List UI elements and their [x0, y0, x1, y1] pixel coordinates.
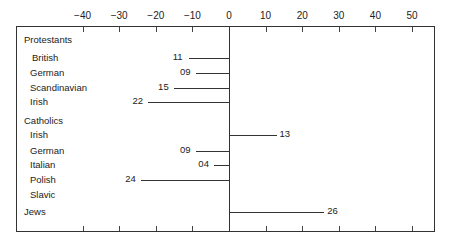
x-tick-label: 40	[370, 10, 381, 21]
x-tick-mark-top	[412, 27, 413, 32]
group-label: Catholics	[24, 115, 63, 127]
category-label: Polish	[30, 174, 56, 186]
data-bar	[174, 88, 229, 90]
x-tick-label: −10	[184, 10, 201, 21]
category-label: German	[30, 145, 64, 157]
category-label: Scandinavian	[30, 82, 87, 94]
value-label: 26	[327, 205, 338, 217]
category-label: Irish	[30, 129, 48, 141]
x-tick-mark-top	[375, 27, 376, 32]
value-label: 04	[198, 158, 209, 170]
x-tick-label: 0	[226, 10, 232, 21]
x-tick-label: 30	[333, 10, 344, 21]
x-tick-mark-bottom	[119, 226, 120, 231]
x-tick-label: 50	[406, 10, 417, 21]
group-label: Protestants	[24, 34, 72, 46]
category-label: German	[30, 67, 64, 79]
data-bar	[148, 102, 229, 104]
category-label: Irish	[30, 96, 48, 108]
x-tick-mark-bottom	[266, 226, 267, 231]
group-label: Jews	[24, 206, 46, 218]
x-tick-mark-bottom	[375, 226, 376, 231]
data-bar	[196, 151, 229, 153]
x-tick-label: −30	[111, 10, 128, 21]
category-label: Italian	[30, 159, 55, 171]
x-tick-label: 10	[260, 10, 271, 21]
x-tick-mark-bottom	[156, 226, 157, 231]
value-label: 22	[132, 95, 143, 107]
data-bar	[229, 135, 277, 137]
value-label: 09	[180, 144, 191, 156]
x-tick-mark-top	[83, 27, 84, 32]
x-tick-label: −40	[74, 10, 91, 21]
x-tick-label: 20	[297, 10, 308, 21]
x-tick-mark-top	[192, 27, 193, 32]
value-label: 11	[173, 51, 183, 63]
x-tick-label: −20	[147, 10, 164, 21]
data-bar	[196, 73, 229, 75]
horizontal-bar-chart: −40−30−20−1001020304050 ProtestantsBriti…	[0, 0, 451, 246]
data-bar	[189, 58, 229, 60]
x-tick-mark-bottom	[339, 226, 340, 231]
x-tick-mark-bottom	[412, 226, 413, 231]
value-label: 13	[280, 128, 291, 140]
data-bar	[229, 212, 324, 214]
x-tick-mark-bottom	[83, 226, 84, 231]
category-label: Slavic	[30, 189, 55, 201]
data-bar	[214, 165, 229, 167]
x-tick-mark-top	[266, 27, 267, 32]
zero-axis-line	[229, 26, 230, 232]
value-label: 15	[158, 81, 169, 93]
value-label: 09	[180, 66, 191, 78]
x-tick-mark-top	[119, 27, 120, 32]
x-tick-mark-top	[339, 27, 340, 32]
x-tick-mark-bottom	[302, 226, 303, 231]
value-label: 24	[125, 173, 136, 185]
x-tick-mark-top	[156, 27, 157, 32]
x-tick-mark-top	[302, 27, 303, 32]
category-label: British	[32, 52, 58, 64]
data-bar	[141, 180, 229, 182]
x-tick-mark-bottom	[192, 226, 193, 231]
